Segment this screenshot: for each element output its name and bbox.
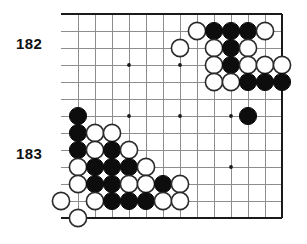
white-stone[interactable]	[239, 39, 256, 56]
white-stone[interactable]	[205, 39, 222, 56]
black-stone[interactable]	[154, 175, 171, 192]
black-stone[interactable]	[222, 56, 239, 73]
black-stone[interactable]	[239, 22, 256, 39]
black-stone[interactable]	[137, 192, 154, 209]
star-point	[229, 114, 233, 118]
white-stone[interactable]	[239, 56, 256, 73]
black-stone[interactable]	[120, 192, 137, 209]
white-stone[interactable]	[256, 56, 273, 73]
white-stone[interactable]	[188, 22, 205, 39]
white-stone[interactable]	[69, 158, 86, 175]
black-stone[interactable]	[239, 73, 256, 90]
star-point	[127, 114, 131, 118]
white-stone[interactable]	[120, 141, 137, 158]
black-stone[interactable]	[69, 107, 86, 124]
go-diagram-root: 182 183	[0, 0, 307, 244]
star-point	[229, 165, 233, 169]
white-stone[interactable]	[137, 158, 154, 175]
black-stone[interactable]	[103, 158, 120, 175]
black-stone[interactable]	[222, 39, 239, 56]
board-stones[interactable]	[52, 22, 290, 226]
star-point	[178, 114, 182, 118]
go-board-canvas[interactable]	[0, 0, 307, 244]
white-stone[interactable]	[205, 56, 222, 73]
white-stone[interactable]	[69, 209, 86, 226]
black-stone[interactable]	[86, 175, 103, 192]
black-stone[interactable]	[103, 141, 120, 158]
white-stone[interactable]	[222, 73, 239, 90]
black-stone[interactable]	[69, 141, 86, 158]
white-stone[interactable]	[86, 124, 103, 141]
black-stone[interactable]	[103, 175, 120, 192]
go-board[interactable]	[0, 0, 307, 244]
star-point	[127, 63, 131, 67]
black-stone[interactable]	[273, 73, 290, 90]
white-stone[interactable]	[103, 124, 120, 141]
black-stone[interactable]	[86, 158, 103, 175]
white-stone[interactable]	[256, 22, 273, 39]
black-stone[interactable]	[239, 107, 256, 124]
white-stone[interactable]	[171, 175, 188, 192]
black-stone[interactable]	[103, 192, 120, 209]
white-stone[interactable]	[86, 192, 103, 209]
white-stone[interactable]	[120, 175, 137, 192]
white-stone[interactable]	[154, 192, 171, 209]
white-stone[interactable]	[137, 175, 154, 192]
white-stone[interactable]	[205, 73, 222, 90]
white-stone[interactable]	[273, 56, 290, 73]
black-stone[interactable]	[120, 158, 137, 175]
white-stone[interactable]	[86, 141, 103, 158]
white-stone[interactable]	[171, 192, 188, 209]
black-stone[interactable]	[222, 22, 239, 39]
white-stone[interactable]	[69, 175, 86, 192]
star-point	[178, 63, 182, 67]
black-stone[interactable]	[205, 22, 222, 39]
white-stone[interactable]	[52, 192, 69, 209]
black-stone[interactable]	[69, 124, 86, 141]
black-stone[interactable]	[256, 73, 273, 90]
white-stone[interactable]	[171, 39, 188, 56]
